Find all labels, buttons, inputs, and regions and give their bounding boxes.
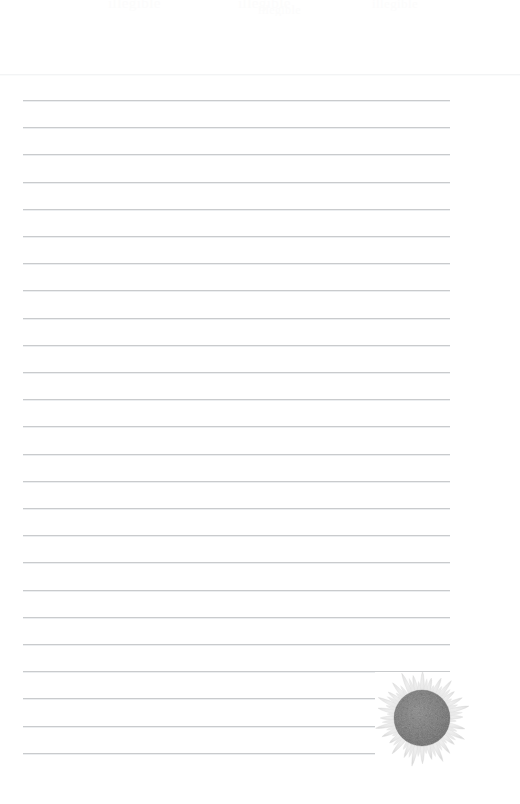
ruled-line [23, 100, 450, 101]
ruled-line [23, 372, 450, 373]
ruled-line [23, 345, 450, 346]
ruled-line [23, 481, 450, 482]
ruled-line [23, 562, 450, 563]
ruled-line [23, 617, 450, 618]
ruled-line [23, 644, 450, 645]
ruled-line [23, 209, 450, 210]
notepaper-page: illegible illegible illegible illegible [0, 0, 520, 804]
ruled-line [23, 263, 450, 264]
sunflower-icon [375, 672, 473, 772]
ruled-line [23, 508, 450, 509]
ruled-line [23, 290, 450, 291]
ruled-line [23, 753, 375, 754]
ruled-line [23, 318, 450, 319]
ruled-line [23, 698, 375, 699]
ruled-line [23, 726, 375, 727]
ruled-line [23, 426, 450, 427]
ruled-line [23, 454, 450, 455]
ruled-line [23, 590, 450, 591]
ruled-line [23, 182, 450, 183]
ruled-line [23, 535, 450, 536]
ruled-line [23, 236, 450, 237]
ruled-line [23, 154, 450, 155]
sunflower-decoration [375, 672, 473, 772]
ruled-line [23, 127, 450, 128]
ruled-line [23, 399, 450, 400]
